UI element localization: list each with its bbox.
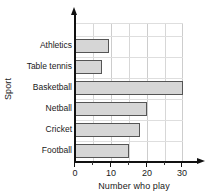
bar-netball	[75, 102, 147, 116]
y-axis-line	[74, 14, 76, 163]
bar-football	[75, 144, 129, 158]
plot-area	[75, 16, 202, 162]
y-tick-label-table-tennis: Table tennis	[2, 61, 72, 71]
x-tick-30	[181, 162, 182, 167]
gridline-y-1	[75, 36, 183, 37]
x-tick-label-30: 30	[170, 168, 194, 178]
bar-table-tennis	[75, 60, 102, 74]
y-axis-tick-labels: Athletics Table tennis Basketball Netbal…	[0, 0, 72, 196]
gridline-y-3	[75, 78, 183, 79]
y-axis-arrow-icon	[71, 7, 77, 15]
x-tick-label-10: 10	[99, 168, 123, 178]
y-tick-label-netball: Netball	[2, 103, 72, 113]
x-tick-10	[110, 162, 111, 167]
x-axis-title: Number who play	[68, 181, 200, 191]
bar-cricket	[75, 123, 140, 137]
gridline-y-2	[75, 57, 183, 58]
x-tick-20	[146, 162, 147, 167]
gridline-y-6	[75, 141, 183, 142]
x-tick-0	[74, 162, 75, 167]
gridline-y-5	[75, 120, 183, 121]
y-tick-label-cricket: Cricket	[2, 124, 72, 134]
x-tick-15	[128, 162, 129, 165]
x-tick-label-0: 0	[63, 168, 87, 178]
bar-athletics	[75, 39, 109, 53]
bar-basketball	[75, 81, 183, 95]
gridline-y-4	[75, 99, 183, 100]
y-tick-label-basketball: Basketball	[2, 82, 72, 92]
y-tick-label-athletics: Athletics	[2, 40, 72, 50]
gridline-y-top	[75, 23, 183, 24]
x-tick-25	[164, 162, 165, 165]
x-tick-label-20: 20	[135, 168, 159, 178]
bar-chart-figure: Sport Athletics Table tennis Basketball …	[0, 0, 212, 196]
y-tick-label-football: Football	[2, 145, 72, 155]
x-tick-5	[92, 162, 93, 165]
x-axis-arrow-icon	[197, 158, 205, 164]
